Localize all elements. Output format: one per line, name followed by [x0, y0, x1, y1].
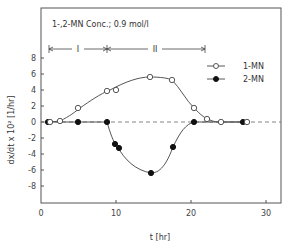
x-tick-labels: 0 10 20 30: [38, 209, 271, 218]
data-point: [244, 119, 249, 124]
data-point: [47, 119, 52, 124]
y-tick-label: 8: [31, 54, 36, 63]
data-point: [104, 119, 109, 124]
y-tick-label: -2: [28, 134, 36, 143]
y-tick-label: -6: [28, 166, 36, 175]
y-tick-label: -4: [28, 150, 36, 159]
data-point: [75, 105, 80, 110]
data-point: [148, 170, 153, 175]
data-point: [57, 118, 62, 123]
y-tick-label: 6: [31, 70, 36, 79]
legend-open-circle-icon: [214, 64, 219, 69]
legend-label-1mn: 1-MN: [243, 62, 264, 71]
chart: 8 6 4 2 0 -2 -4 -6 -8 0 10 20 30 t [hr] …: [0, 0, 289, 247]
series-1mn-line: [50, 77, 247, 122]
legend-filled-circle-icon: [214, 77, 219, 82]
data-point: [104, 88, 109, 93]
x-tick-label: 0: [38, 209, 43, 218]
x-axis-label: t [hr]: [150, 233, 170, 242]
x-tick-label: 20: [186, 209, 196, 218]
y-tick-label: 4: [31, 86, 36, 95]
y-axis-label: dx/dt x 10² [1/hr]: [7, 96, 16, 165]
data-point: [170, 144, 175, 149]
data-point: [169, 77, 174, 82]
y-tick-label: 2: [31, 102, 36, 111]
y-tick-labels: 8 6 4 2 0 -2 -4 -6 -8: [28, 54, 36, 191]
series-2mn-line: [48, 122, 243, 173]
phase-1-label: I: [77, 45, 79, 54]
series-1mn-markers: [47, 74, 249, 124]
legend-label-2mn: 2-MN: [243, 75, 264, 84]
phase-annotation: [49, 45, 205, 53]
y-tick-label: 0: [31, 118, 36, 127]
legend: 1-MN 2-MN: [207, 62, 264, 84]
data-point: [191, 119, 196, 124]
data-point: [147, 74, 152, 79]
data-point: [218, 119, 223, 124]
data-point: [191, 105, 196, 110]
data-point: [116, 145, 121, 150]
y-tick-label: -8: [28, 182, 36, 191]
data-point: [75, 119, 80, 124]
x-tick-label: 10: [111, 209, 121, 218]
x-tick-label: 30: [261, 209, 271, 218]
chart-title: 1-,2-MN Conc.; 0.9 mol/l: [52, 20, 149, 29]
series-2mn-markers: [45, 119, 245, 175]
phase-2-label: II: [153, 45, 158, 54]
data-point: [204, 116, 209, 121]
data-point: [113, 87, 118, 92]
